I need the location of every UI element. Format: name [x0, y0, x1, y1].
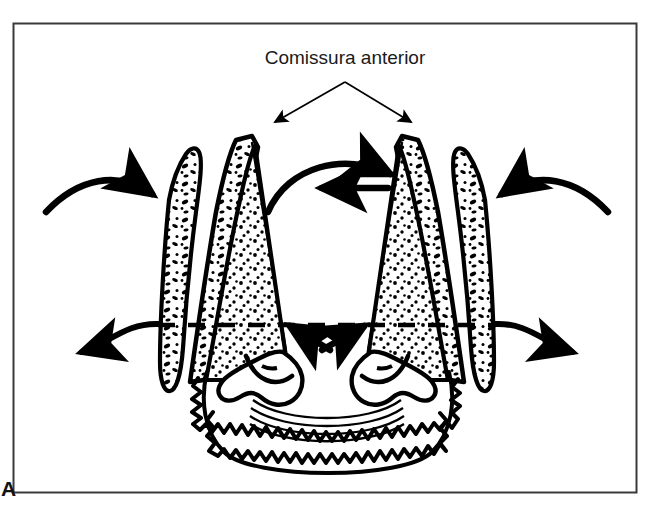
figure-container: Comissura anterior — [0, 0, 654, 521]
larynx-diagram: Comissura anterior — [0, 0, 654, 521]
comissura-anterior-label: Comissura anterior — [265, 47, 426, 68]
panel-letter-label: A — [1, 478, 16, 499]
